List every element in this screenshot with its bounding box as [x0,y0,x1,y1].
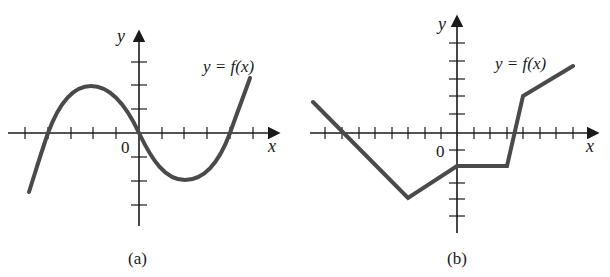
x-axis-label-b: x [585,136,594,156]
caption-a: (a) [128,249,147,268]
graph-a: y x 0 y = f(x) (a) [8,26,278,268]
origin-label-a: 0 [121,138,130,157]
figure-canvas: y x 0 y = f(x) (a) [0,0,610,277]
x-axis-label-a: x [267,136,276,156]
function-curve-b [313,66,573,198]
y-axis-label-a: y [115,26,125,46]
caption-b: (b) [447,249,467,268]
graph-b: y x 0 y = f(x) (b) [310,14,597,268]
function-label-b: y = f(x) [493,54,546,73]
y-axis-label-b: y [436,14,446,34]
origin-label-b: 0 [436,142,445,161]
function-label-a: y = f(x) [201,57,254,76]
